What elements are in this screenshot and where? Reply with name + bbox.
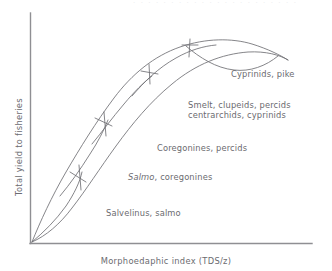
figure-container: · · · · · · · · · · · · · · · · · · · · … <box>0 0 332 271</box>
annotation-smelt-line1: Smelt, clupeids, percids <box>188 100 291 111</box>
annotation-smelt-line2: centrarchids, cyprinids <box>188 110 286 121</box>
lens-boundary-2 <box>60 120 108 196</box>
annotation-salmo-rest: , coregonines <box>155 172 213 182</box>
annotation-cyprinids-pike: Cyprinids, pike <box>231 69 295 80</box>
y-axis-label: Total yield to fisheries <box>14 98 24 196</box>
annotation-salmo-coregonines: Salmo, coregonines <box>128 172 212 183</box>
segment-tick-4b <box>189 39 190 57</box>
lens-boundary-3 <box>92 76 152 144</box>
annotation-salmo-genus: Salmo <box>128 172 155 182</box>
annotation-salvelinus-salmo: Salvelinus, salmo <box>106 208 181 219</box>
annotation-coregonines-percids: Coregonines, percids <box>157 143 247 154</box>
segment-tick-2b <box>104 112 106 136</box>
segment-tick-3b <box>149 64 150 84</box>
plot-drawing <box>0 0 332 271</box>
lens-boundary-5 <box>186 46 278 70</box>
x-axis-label: Morphoedaphic index (TDS/z) <box>0 256 332 266</box>
lens-boundary-1 <box>32 172 82 242</box>
lens-boundary-4 <box>132 45 216 96</box>
